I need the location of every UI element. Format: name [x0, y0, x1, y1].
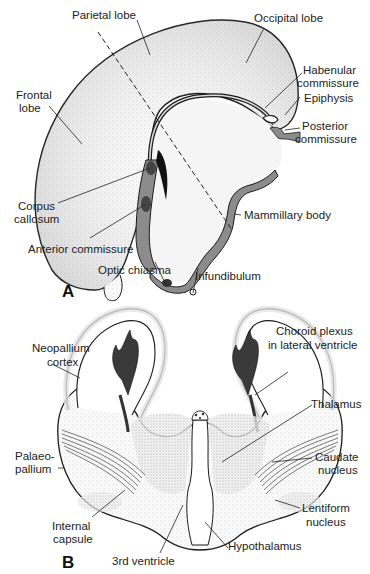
panel-b-letter: B [62, 553, 74, 573]
label-palaeopallium-line1: Palaeo- [15, 450, 55, 463]
label-occipital-lobe: Occipital lobe [254, 12, 323, 25]
label-neopallium-cortex-line1: Neopallium [32, 342, 90, 355]
label-lentiform-nucleus-line1: Lentiform [302, 502, 350, 515]
label-parietal-lobe: Parietal lobe [72, 9, 136, 22]
label-choroid-plexus-line1: Choroid plexus [276, 325, 353, 338]
label-caudate-nucleus-line1: Caudate [315, 451, 358, 464]
label-corpus-callosum-line2: callosum [14, 213, 59, 226]
label-optic-chiasma: Optic chiasma [98, 264, 171, 277]
label-habenular-commissure-line2: commissure [297, 77, 359, 90]
label-corpus-callosum-line1: Corpus [18, 200, 55, 213]
label-internal-capsule-line2: capsule [53, 533, 93, 546]
label-internal-capsule-line1: Internal [52, 520, 90, 533]
label-anterior-commissure: Anterior commissure [28, 243, 133, 256]
panel-a-sagittal-brain [35, 20, 302, 301]
label-frontal-lobe-line2: lobe [19, 102, 41, 115]
label-lentiform-nucleus-line2: nucleus [306, 516, 346, 529]
panel-a-letter: A [62, 282, 74, 302]
label-hypothalamus: Hypothalamus [228, 540, 302, 553]
label-palaeopallium-line2: pallium [15, 463, 51, 476]
label-posterior-commissure-line2: commissure [295, 133, 357, 146]
label-frontal-lobe-line1: Frontal [16, 89, 52, 102]
label-mammillary-body: Mammillary body [244, 209, 331, 222]
label-choroid-plexus-line2: in lateral ventricle [268, 339, 357, 352]
label-neopallium-cortex-line2: cortex [47, 356, 78, 369]
label-caudate-nucleus-line2: nucleus [318, 464, 358, 477]
label-epiphysis: Epiphysis [304, 92, 353, 105]
label-posterior-commissure-line1: Posterior [302, 120, 348, 133]
label-third-ventricle: 3rd ventricle [112, 555, 175, 568]
label-thalamus: Thalamus [311, 398, 362, 411]
label-habenular-commissure-line1: Habenular [303, 64, 356, 77]
label-infundibulum: Infundibulum [195, 270, 261, 283]
